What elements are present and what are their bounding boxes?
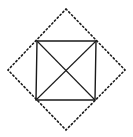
geometry-diagram <box>0 0 133 137</box>
